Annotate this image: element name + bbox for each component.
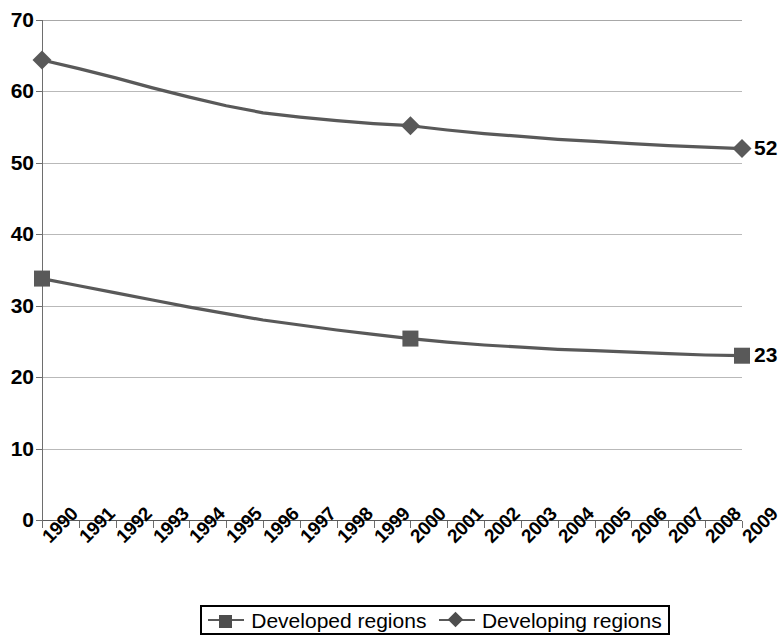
y-tick-label-30: 30: [0, 295, 34, 316]
y-tick-label-20: 20: [0, 366, 34, 387]
gridline-70: [42, 20, 742, 21]
legend-entry-developed[interactable]: Developed regions: [204, 610, 430, 631]
legend-label-developing: Developing regions: [482, 610, 662, 631]
y-tick-label-10: 10: [0, 438, 34, 459]
y-tick-mark-30: [36, 306, 43, 307]
y-tick-mark-10: [36, 449, 43, 450]
y-tick-mark-40: [36, 234, 43, 235]
gridline-30: [42, 306, 742, 307]
y-tick-mark-60: [36, 91, 43, 92]
gridline-40: [42, 234, 742, 235]
y-axis-line: [42, 20, 43, 521]
y-tick-label-60: 60: [0, 80, 34, 101]
gridline-60: [42, 91, 742, 92]
y-tick-mark-70: [36, 20, 43, 21]
y-tick-label-0: 0: [0, 509, 34, 530]
legend: Developed regions Developing regions: [200, 605, 670, 635]
data-label-developing-2009: 52: [754, 137, 777, 158]
y-tick-label-50: 50: [0, 152, 34, 173]
y-tick-label-70: 70: [0, 9, 34, 30]
y-tick-mark-20: [36, 377, 43, 378]
y-tick-mark-50: [36, 163, 43, 164]
gridline-50: [42, 163, 742, 164]
gridline-20: [42, 377, 742, 378]
diamond-marker-icon: [439, 612, 475, 628]
line-chart: 70 60 50 40 30 20 10 0 19901991199219931…: [0, 0, 778, 636]
gridline-10: [42, 449, 742, 450]
legend-label-developed: Developed regions: [251, 610, 426, 631]
x-tick-label-2009: 2009: [738, 503, 778, 548]
legend-entry-developing[interactable]: Developing regions: [435, 610, 666, 631]
data-label-developed-2009: 23: [754, 344, 777, 365]
square-marker-icon: [208, 612, 244, 628]
plot-area: [42, 20, 742, 520]
y-tick-label-40: 40: [0, 223, 34, 244]
